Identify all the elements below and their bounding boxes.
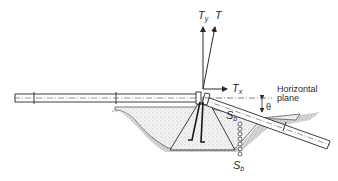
horizontal-pipe: [14, 92, 205, 104]
label-theta: θ: [266, 103, 271, 112]
T-vector: [203, 27, 215, 89]
label-T-main: T: [215, 9, 222, 21]
label-Tx-sub: x: [239, 88, 243, 95]
label-Ty-sub: y: [205, 15, 209, 22]
label-Ty: Ty: [198, 10, 208, 22]
label-horizontal-plane: Horizontal plane: [277, 85, 318, 103]
label-Sb-upper: Sb: [226, 110, 237, 122]
label-theta-text: θ: [266, 102, 271, 112]
label-Sb-lower: Sb: [233, 160, 244, 172]
label-Tx-main: T: [232, 82, 239, 94]
force-vectors: [203, 27, 227, 89]
label-Ty-main: T: [198, 9, 205, 21]
label-Sb-upper-sub: b: [233, 115, 237, 122]
label-T: T: [215, 10, 222, 21]
label-plane: plane: [277, 94, 318, 103]
label-Tx: Tx: [232, 83, 242, 95]
label-Sb-lower-sub: b: [240, 165, 244, 172]
